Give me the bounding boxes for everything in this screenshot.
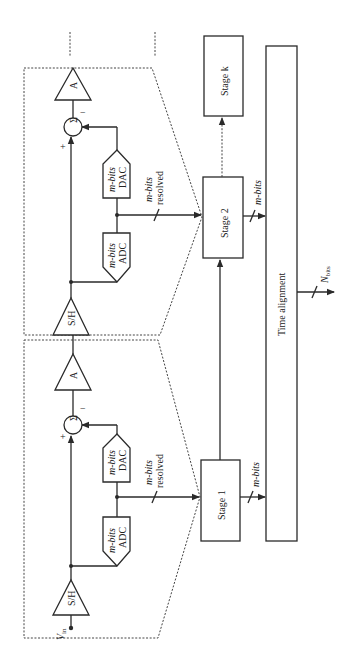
stage2-dashed-enclosure (24, 68, 202, 335)
stage2-block: S/H m-bits ADC m-bits resolved m-bits DA… (53, 68, 201, 335)
svg-text:resolved: resolved (154, 171, 165, 205)
svg-text:−: − (80, 403, 86, 414)
svg-text:ADC: ADC (117, 527, 128, 548)
svg-text:m-bits: m-bits (143, 177, 154, 202)
stage1-dashed-enclosure (24, 340, 200, 638)
output-nbits-label: Nbits (319, 266, 332, 284)
svg-text:+: + (60, 431, 66, 442)
svg-text:m-bits: m-bits (252, 180, 263, 205)
vin-label: Vin (55, 628, 68, 640)
stage1-sh-label: S/H (66, 590, 77, 606)
svg-text:m-bits: m-bits (106, 450, 117, 475)
stagek-output-box: Stage k (204, 36, 243, 116)
svg-text:m-bits: m-bits (106, 528, 117, 553)
svg-text:m-bits: m-bits (106, 243, 117, 268)
svg-text:Stage 1: Stage 1 (216, 490, 227, 520)
svg-text:S/H: S/H (66, 310, 77, 326)
svg-text:m-bits: m-bits (250, 462, 261, 487)
svg-text:Stage 2: Stage 2 (219, 208, 230, 238)
svg-text:−: − (80, 107, 86, 118)
svg-text:Stage k: Stage k (219, 66, 230, 96)
stage2-output-box: Stage 2 m-bits (203, 118, 265, 258)
svg-text:+: + (60, 141, 66, 152)
svg-text:DAC: DAC (117, 167, 128, 188)
svg-text:m-bits: m-bits (143, 460, 154, 485)
svg-text:m-bits: m-bits (106, 167, 117, 192)
svg-text:DAC: DAC (117, 450, 128, 471)
stage1-block: S/H m-bits ADC m-bits resolved m-bits DA… (53, 335, 199, 630)
time-alignment-block: Time alignment Nbits (266, 46, 334, 541)
pipelined-adc-diagram: S/H m-bits ADC m-bits resolved m-bits DA… (0, 0, 354, 662)
svg-text:A: A (68, 81, 79, 89)
svg-text:ADC: ADC (117, 243, 128, 264)
svg-text:Time alignment: Time alignment (276, 273, 287, 336)
svg-text:resolved: resolved (154, 454, 165, 488)
stage1-output-box: Stage 1 m-bits (201, 260, 265, 541)
svg-text:A: A (68, 371, 79, 379)
